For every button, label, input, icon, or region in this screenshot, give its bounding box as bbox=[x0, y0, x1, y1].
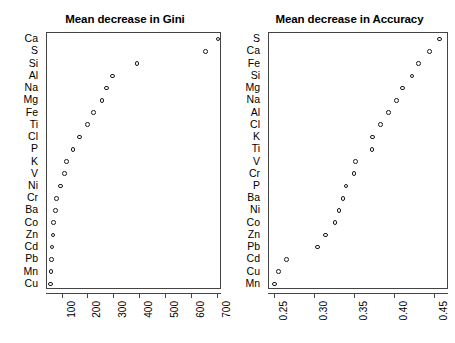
y-axis-label: S bbox=[253, 33, 260, 44]
data-point bbox=[51, 233, 56, 238]
y-axis-label: Zn bbox=[248, 229, 260, 240]
y-axis-label: Co bbox=[25, 216, 38, 227]
data-point bbox=[337, 208, 342, 213]
y-axis-label: Ba bbox=[25, 204, 38, 215]
x-axis-tick-label: 300 bbox=[118, 301, 128, 318]
y-axis-label: Ti bbox=[30, 119, 38, 130]
x-axis-tick-label: 100 bbox=[67, 301, 77, 318]
data-point bbox=[85, 122, 90, 127]
y-axis-label: Ni bbox=[250, 204, 260, 215]
data-point bbox=[416, 61, 421, 66]
x-axis-tick bbox=[113, 293, 114, 298]
data-point bbox=[49, 269, 54, 274]
data-point bbox=[53, 208, 58, 213]
x-axis-tick bbox=[191, 293, 192, 298]
y-axis-label: Pb bbox=[247, 241, 260, 252]
x-axis-tick bbox=[87, 293, 88, 298]
data-point bbox=[410, 74, 415, 79]
y-axis-label: Al bbox=[251, 106, 260, 117]
plot-box-accuracy bbox=[268, 32, 448, 289]
data-point bbox=[284, 257, 289, 262]
data-point bbox=[394, 98, 399, 103]
y-axis-label: K bbox=[253, 131, 260, 142]
y-axis-label: Ni bbox=[28, 180, 38, 191]
y-axis-label: Fe bbox=[248, 57, 260, 68]
y-axis-category-labels-accuracy: SCaFeSiMgNaAlClKTiVCrPBaNiCoZnPbCdCuMn bbox=[228, 32, 264, 289]
data-point bbox=[315, 245, 320, 250]
panel-title-gini: Mean decrease in Gini bbox=[0, 13, 228, 25]
data-point bbox=[91, 110, 96, 115]
x-axis-tick bbox=[62, 293, 63, 298]
y-axis-label: Si bbox=[251, 70, 260, 81]
y-axis-label: Si bbox=[29, 57, 38, 68]
x-axis-tick bbox=[434, 293, 435, 298]
data-point bbox=[276, 269, 281, 274]
y-axis-label: Ti bbox=[252, 143, 260, 154]
data-point bbox=[49, 257, 54, 262]
y-axis-label: Cd bbox=[247, 253, 260, 264]
x-axis-tick-label: 0.30 bbox=[319, 301, 329, 320]
data-point bbox=[62, 171, 67, 176]
x-axis-tick-label: 500 bbox=[170, 301, 180, 318]
y-axis-label: Ca bbox=[247, 45, 260, 56]
y-axis-label: Na bbox=[247, 94, 260, 105]
x-axis-tick bbox=[165, 293, 166, 298]
y-axis-label: V bbox=[253, 155, 260, 166]
random-forest-variable-importance-figure: Mean decrease in Gini CaSSiAlNaMgFeTiClP… bbox=[0, 0, 455, 343]
x-axis-line-accuracy bbox=[268, 293, 448, 294]
y-axis-label: Zn bbox=[26, 229, 38, 240]
y-axis-label: Mg bbox=[245, 82, 260, 93]
panel-mean-decrease-gini: Mean decrease in Gini CaSSiAlNaMgFeTiClP… bbox=[0, 0, 228, 343]
data-point bbox=[353, 159, 358, 164]
data-point bbox=[344, 184, 349, 189]
y-axis-category-labels-gini: CaSSiAlNaMgFeTiClPKVNiCrBaCoZnCdPbMnCu bbox=[0, 32, 42, 289]
plot-box-gini bbox=[46, 32, 221, 289]
y-axis-label: V bbox=[31, 167, 38, 178]
data-point bbox=[51, 220, 56, 225]
x-axis-tick-label: 0.35 bbox=[359, 301, 369, 320]
y-axis-label: Mn bbox=[23, 265, 38, 276]
plot-area-accuracy bbox=[269, 33, 447, 288]
x-axis-tick bbox=[394, 293, 395, 298]
data-point bbox=[50, 245, 55, 250]
data-point bbox=[323, 233, 328, 238]
y-axis-label: Mn bbox=[245, 278, 260, 289]
data-point bbox=[427, 49, 432, 54]
data-point bbox=[77, 135, 82, 140]
y-axis-label: Ba bbox=[247, 192, 260, 203]
data-point bbox=[71, 147, 76, 152]
x-axis-line-gini bbox=[46, 293, 221, 294]
data-point bbox=[272, 282, 277, 287]
y-axis-label: K bbox=[31, 155, 38, 166]
data-point bbox=[58, 184, 63, 189]
y-axis-label: Cr bbox=[27, 192, 38, 203]
x-axis-tick-label: 0.40 bbox=[399, 301, 409, 320]
x-axis-tick-label: 400 bbox=[144, 301, 154, 318]
x-axis-tick-label: 600 bbox=[196, 301, 206, 318]
y-axis-label: P bbox=[31, 143, 38, 154]
data-point bbox=[400, 86, 405, 91]
y-axis-label: Pb bbox=[25, 253, 38, 264]
data-point bbox=[333, 220, 338, 225]
y-axis-label: Na bbox=[25, 82, 38, 93]
y-axis-label: Mg bbox=[23, 94, 38, 105]
x-axis-tick bbox=[274, 293, 275, 298]
data-point bbox=[370, 147, 375, 152]
x-axis-tick-label: 0.25 bbox=[279, 301, 289, 320]
data-point bbox=[216, 37, 221, 42]
x-axis-tick bbox=[217, 293, 218, 298]
y-axis-label: Cr bbox=[249, 167, 260, 178]
data-point bbox=[378, 122, 383, 127]
panel-mean-decrease-accuracy: Mean decrease in Accuracy SCaFeSiMgNaAlC… bbox=[228, 0, 455, 343]
y-axis-label: Cl bbox=[28, 131, 38, 142]
data-point bbox=[386, 110, 391, 115]
y-axis-label: Cu bbox=[247, 265, 260, 276]
y-axis-label: P bbox=[253, 180, 260, 191]
panel-title-accuracy: Mean decrease in Accuracy bbox=[228, 13, 455, 25]
data-point bbox=[352, 171, 357, 176]
y-axis-label: Fe bbox=[26, 106, 38, 117]
y-axis-label: S bbox=[31, 45, 38, 56]
data-point bbox=[370, 135, 375, 140]
data-point bbox=[48, 282, 53, 287]
data-point bbox=[135, 61, 140, 66]
